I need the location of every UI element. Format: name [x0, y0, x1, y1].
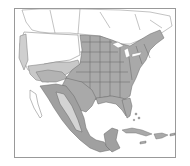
range-map — [0, 0, 190, 166]
